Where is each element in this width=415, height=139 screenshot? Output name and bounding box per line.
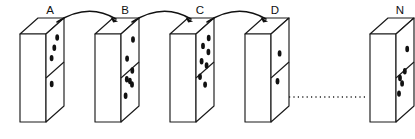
- plate-sequence-diagram: A B: [0, 0, 415, 139]
- plate-b-side-face: [95, 34, 121, 122]
- transition-arrow-c-to-d: [207, 11, 268, 22]
- dot: [398, 75, 402, 81]
- dot: [205, 62, 209, 68]
- plate-d-side-face: [245, 34, 271, 122]
- dot: [131, 36, 135, 42]
- dot: [207, 49, 211, 55]
- plate-n-side-face: [370, 34, 396, 122]
- dot: [130, 67, 134, 73]
- dot: [278, 50, 282, 56]
- dot: [207, 35, 211, 41]
- plate-c-label: C: [196, 4, 204, 16]
- dot: [276, 78, 280, 84]
- arrow-curve-c-to-d: [207, 11, 266, 22]
- dot: [125, 55, 129, 61]
- dot: [198, 74, 202, 80]
- figure-container: A B: [0, 0, 415, 139]
- dot: [405, 46, 409, 52]
- dot: [50, 55, 54, 61]
- plate-n-label: N: [396, 4, 404, 16]
- arrow-curve-a-to-b: [57, 11, 116, 22]
- dot: [130, 81, 134, 87]
- plate-a-side-face: [20, 34, 46, 122]
- dot: [400, 80, 404, 86]
- plate-a-label: A: [46, 4, 54, 16]
- plate-b-label: B: [121, 4, 129, 16]
- dot: [397, 90, 401, 96]
- arrow-curve-b-to-c: [132, 11, 191, 22]
- plate-c-side-face: [170, 34, 196, 122]
- dot: [403, 68, 407, 74]
- plate-d-label: D: [271, 4, 279, 16]
- dot: [124, 93, 128, 99]
- transition-arrow-a-to-b: [57, 11, 118, 22]
- dot: [201, 43, 205, 49]
- transition-arrow-b-to-c: [132, 11, 193, 22]
- dot: [203, 81, 207, 87]
- dot: [200, 58, 204, 64]
- plate-n: N: [370, 4, 414, 122]
- dot: [52, 45, 56, 51]
- dot: [50, 81, 54, 87]
- dot: [55, 34, 59, 40]
